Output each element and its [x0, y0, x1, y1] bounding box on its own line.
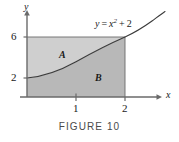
curve-equation-lhs: y	[95, 18, 99, 29]
y-tick-label-2: 2	[11, 72, 17, 83]
y-axis-label: y	[24, 2, 28, 12]
x-axis-arrowhead	[157, 94, 163, 100]
curve-equation-plus: +	[119, 18, 125, 29]
figure-caption: FIGURE 10	[0, 121, 179, 132]
curve-equation-label: y=x2+2	[95, 18, 132, 29]
curve-equation-constant: 2	[127, 18, 132, 29]
y-tick-label-6: 6	[11, 31, 17, 42]
x-axis-label: x	[166, 90, 170, 100]
region-label-a: A	[59, 50, 66, 60]
x-tick-label-1: 1	[73, 103, 79, 114]
curve-equation-exponent: 2	[114, 17, 118, 25]
curve-equation-equals: =	[101, 18, 107, 29]
x-tick-label-2: 2	[122, 103, 128, 114]
figure-container: y x 6 2 1 2 A B y=x2+2 FIGURE 10	[0, 0, 179, 142]
region-label-b: B	[95, 73, 102, 83]
